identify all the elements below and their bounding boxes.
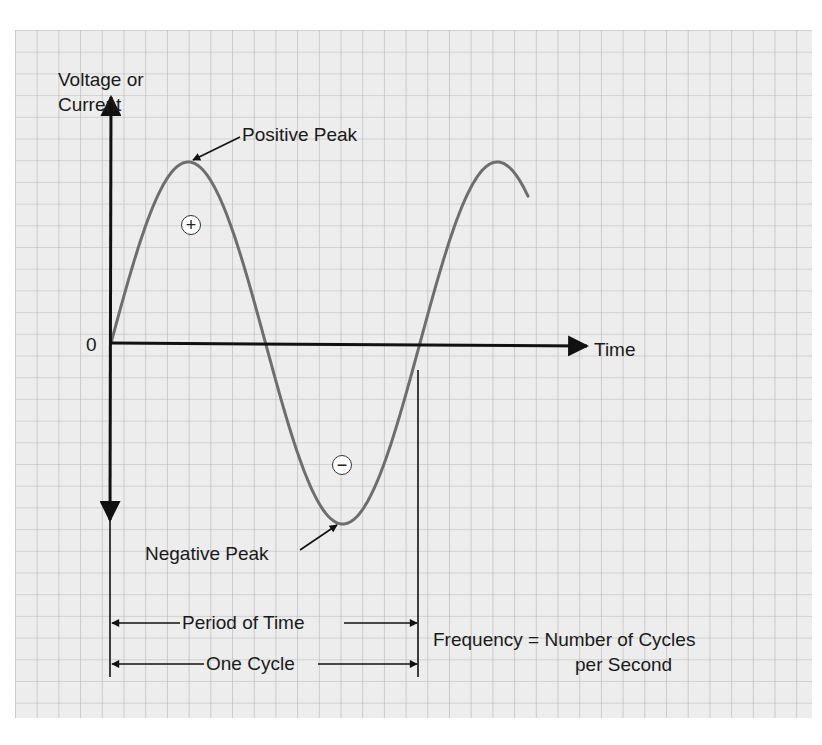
- one-cycle-label: One Cycle: [206, 653, 295, 675]
- voltage-axis: [110, 97, 111, 520]
- diagram-canvas: [0, 0, 822, 745]
- positive-peak-label: Positive Peak: [242, 124, 357, 146]
- frequency-definition-line2: per Second: [575, 654, 672, 676]
- graph-paper-grid: [15, 30, 812, 718]
- time-axis-label: Time: [594, 339, 636, 361]
- period-of-time-label: Period of Time: [182, 612, 305, 634]
- negative-peak-label: Negative Peak: [145, 543, 269, 565]
- frequency-definition-line1: Frequency = Number of Cycles: [433, 629, 695, 651]
- y-axis-label-line1: Voltage or: [58, 69, 144, 91]
- sine-wave-figure: Voltage or Current 0 Time Positive Peak …: [0, 0, 822, 745]
- negative-half-icon: −: [332, 455, 352, 475]
- minus-symbol: −: [337, 456, 348, 474]
- y-axis-label-line2: Current: [58, 94, 121, 116]
- positive-half-icon: +: [181, 215, 201, 235]
- origin-label: 0: [86, 334, 97, 356]
- plus-symbol: +: [186, 216, 197, 234]
